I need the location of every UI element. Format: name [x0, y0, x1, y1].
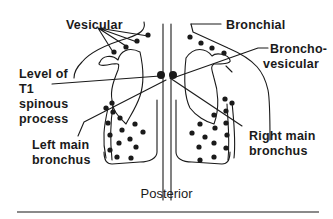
right-lower-lung — [176, 100, 230, 164]
right-bronchus-dot — [222, 96, 227, 101]
label-bronchovesicular-1: Broncho- — [270, 42, 327, 56]
label-level-t1-4: process — [19, 112, 68, 126]
label-bronchial: Bronchial — [226, 18, 285, 32]
label-left-main-bronchus-1: Left main — [32, 138, 89, 152]
right-bronchus-dot — [223, 108, 228, 113]
label-right-main-bronchus-2: bronchus — [249, 144, 308, 158]
left-lung-dot — [128, 155, 133, 160]
left-lung-dot — [132, 121, 137, 126]
bottom-rule — [17, 211, 319, 213]
vesicular-dot — [111, 49, 116, 54]
left-bronchus-dot — [105, 120, 110, 125]
t1-dot-left — [157, 71, 165, 79]
right-lung-dot — [196, 144, 201, 149]
label-level-t1-3: spinous — [19, 97, 68, 111]
bronchial-dot — [221, 50, 226, 55]
left-lung-dot — [114, 154, 119, 159]
right-bronchus-hook — [226, 66, 232, 72]
label-bronchovesicular-2: vesicular — [263, 57, 319, 71]
left-lung-dot — [140, 129, 145, 134]
left-lung-dot — [119, 127, 124, 132]
left-bronchus-strand — [104, 108, 108, 158]
left-bronchus-dot — [103, 105, 108, 110]
right-bronchus-dot — [223, 120, 228, 125]
right-lung-dot — [202, 134, 207, 139]
caption-posterior: Posterior — [0, 186, 333, 201]
right-bronchus-dot — [223, 145, 228, 150]
label-level-t1-2: T1 — [19, 82, 34, 96]
left-bronchus-dot — [107, 147, 112, 152]
right-lung-dot — [211, 112, 216, 117]
right-lung-dot — [211, 154, 216, 159]
right-lung-dot — [189, 130, 194, 135]
left-scapula — [99, 50, 143, 124]
right-lung-dot — [211, 140, 216, 145]
label-level-t1-1: Level of — [19, 67, 68, 81]
right-lung-dot — [212, 125, 217, 130]
vesicular-dot — [134, 38, 139, 43]
label-right-main-bronchus-1: Right main — [249, 129, 316, 143]
vesicular-dot — [145, 32, 150, 37]
left-lung-dot — [133, 144, 138, 149]
bronchial-dot — [209, 45, 214, 50]
right-bronchus-dot — [229, 100, 234, 105]
right-bronchus-dot — [224, 132, 229, 137]
t1-leader — [52, 76, 160, 84]
left-bronchus-dot — [109, 100, 114, 105]
bronchial-dot — [198, 40, 203, 45]
right-bronchus-strand — [232, 102, 235, 158]
right-lung-dot — [197, 157, 202, 162]
left-lung-dot — [127, 136, 132, 141]
t1-dot-right — [169, 71, 177, 79]
bronchial-dot — [187, 34, 192, 39]
left-bronchus-dot — [107, 132, 112, 137]
left-bronchus-dot — [110, 109, 115, 114]
label-left-main-bronchus-2: bronchus — [32, 153, 91, 167]
label-vesicular: Vesicular — [66, 18, 123, 32]
right-lung-dot — [197, 121, 202, 126]
left-lung-dot — [117, 115, 122, 120]
left-lung-dot — [116, 140, 121, 145]
vesicular-dot — [123, 44, 128, 49]
